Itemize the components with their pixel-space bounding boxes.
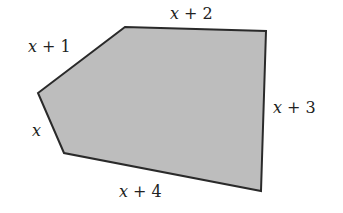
side-label-top-left: x + 1	[28, 37, 71, 56]
pentagon-diagram: x + 1x + 2x + 3x + 4x	[0, 0, 343, 213]
side-label-top: x + 2	[170, 4, 213, 23]
side-label-left: x	[32, 121, 41, 140]
pentagon-shape	[38, 27, 266, 191]
side-label-right: x + 3	[273, 98, 316, 117]
side-label-bottom: x + 4	[119, 182, 162, 201]
